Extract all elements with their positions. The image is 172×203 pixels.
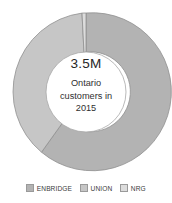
legend-swatch-nrg	[120, 184, 128, 192]
legend-label-nrg: NRG	[131, 185, 146, 192]
legend-label-enbridge: ENBRIDGE	[37, 185, 72, 192]
legend-item-nrg[interactable]: NRG	[120, 184, 145, 192]
legend-item-union[interactable]: UNION	[80, 184, 112, 192]
chart-legend: ENBRIDGE UNION NRG	[0, 180, 172, 196]
legend-label-union: UNION	[91, 185, 113, 192]
legend-swatch-enbridge	[26, 184, 34, 192]
donut-chart-area: 3.5M Ontario customers in 2015	[0, 0, 172, 178]
legend-item-enbridge[interactable]: ENBRIDGE	[26, 184, 72, 192]
legend-swatch-union	[80, 184, 88, 192]
donut-chart-svg	[0, 0, 172, 178]
donut-chart-figure: 3.5M Ontario customers in 2015 ENBRIDGE …	[0, 0, 172, 203]
donut-inner-hole	[46, 52, 126, 132]
